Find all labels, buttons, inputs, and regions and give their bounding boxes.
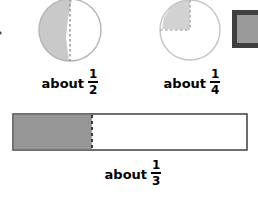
circle-half-figure [38,0,102,64]
chevron-right-icon [0,12,22,54]
label-about-one-third: about 1 3 [88,160,178,188]
fraction-denominator: 3 [152,174,160,187]
label-about-one-quarter: about 1 4 [152,70,232,96]
fraction-denominator: 2 [89,83,97,96]
fraction-one-half: 1 2 [88,68,98,96]
bar-third-figure [12,113,248,151]
label-prefix-text: about [105,167,147,182]
fraction-numerator: 1 [210,68,220,83]
label-prefix-text: about [42,76,84,91]
fraction-one-quarter: 1 4 [210,68,220,96]
fraction-estimation-figure: about 1 2 about 1 4 [0,0,258,201]
label-about-one-half: about 1 2 [30,70,110,96]
fraction-denominator: 4 [211,83,219,96]
corner-square-decoration [232,10,258,48]
fraction-numerator: 1 [151,159,161,174]
fraction-one-third: 1 3 [151,159,161,187]
fraction-numerator: 1 [88,68,98,83]
circle-quarter-figure [158,0,222,64]
label-prefix-text: about [164,76,206,91]
